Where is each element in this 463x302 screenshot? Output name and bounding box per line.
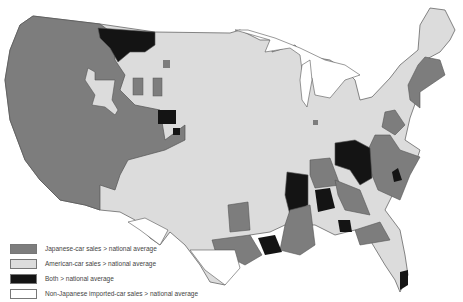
legend-item-non-japanese-import: Non-Japanese imported-car sales > nation… xyxy=(10,286,198,301)
legend-item-both: Both > national average xyxy=(10,271,198,286)
legend: Japanese-car sales > national average Am… xyxy=(10,241,198,301)
patch-japanese-2 xyxy=(153,78,162,96)
patch-both-1 xyxy=(158,110,176,124)
legend-swatch-non-japanese-import xyxy=(10,289,37,299)
legend-swatch-american xyxy=(10,259,37,269)
legend-swatch-japanese xyxy=(10,244,37,254)
legend-item-american: American-car sales > national average xyxy=(10,256,198,271)
legend-swatch-both xyxy=(10,274,37,284)
patch-japanese-1 xyxy=(133,78,143,95)
legend-label: American-car sales > national average xyxy=(45,260,156,267)
patch-japanese-3 xyxy=(163,60,170,68)
region-oklahoma-japanese xyxy=(228,202,250,232)
region-la-both xyxy=(258,235,282,255)
legend-label: Both > national average xyxy=(45,275,114,282)
patch-both-2 xyxy=(173,128,180,135)
legend-label: Japanese-car sales > national average xyxy=(45,245,157,252)
region-georgia-both xyxy=(338,220,352,232)
patch-japanese-ia xyxy=(313,120,318,125)
legend-item-japanese: Japanese-car sales > national average xyxy=(10,241,198,256)
legend-label: Non-Japanese imported-car sales > nation… xyxy=(45,290,198,297)
region-florida-both xyxy=(400,270,408,290)
